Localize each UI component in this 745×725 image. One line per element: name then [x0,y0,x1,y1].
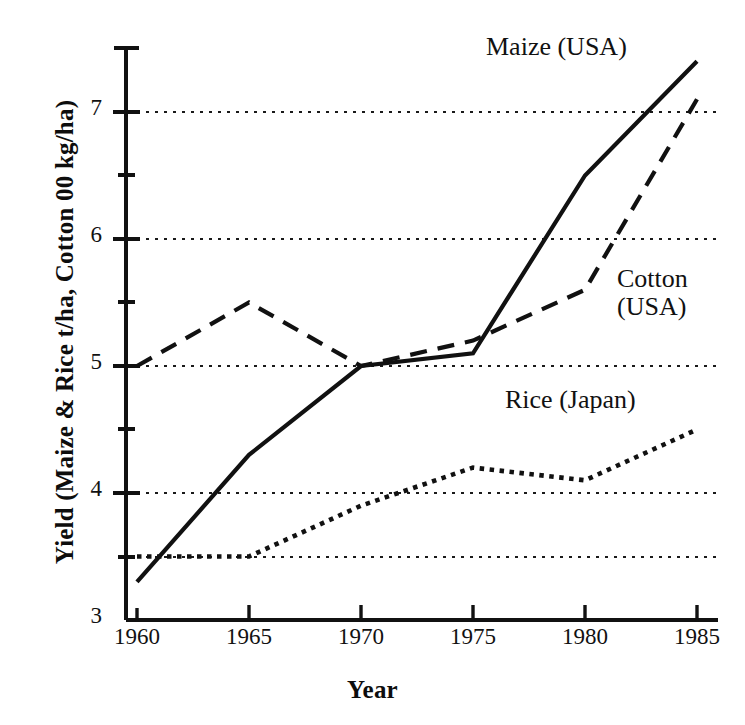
series-line-cotton [137,99,697,366]
x-axis-title: Year [0,676,745,704]
x-tick-label-1975: 1975 [428,624,518,650]
chart-figure: 7 6 5 4 3 1960 1965 1970 1975 1980 1985 … [0,0,745,725]
series-annotation-cotton: Cotton (USA) [617,265,688,321]
x-tick-label-1960: 1960 [92,624,182,650]
y-axis-title: Yield (Maize & Rice t/ha, Cotton 00 kg/h… [51,52,79,612]
series-annotation-maize: Maize (USA) [486,33,627,61]
x-tick-label-1985: 1985 [652,624,742,650]
line-chart-plot [0,0,745,725]
series-line-maize [137,61,697,582]
x-tick-label-1965: 1965 [204,624,294,650]
data-series [137,61,697,582]
axes-spines [126,48,718,620]
x-tick-label-1980: 1980 [540,624,630,650]
series-annotation-rice: Rice (Japan) [505,386,636,414]
x-tick-label-1970: 1970 [316,624,406,650]
gridlines [137,112,718,557]
